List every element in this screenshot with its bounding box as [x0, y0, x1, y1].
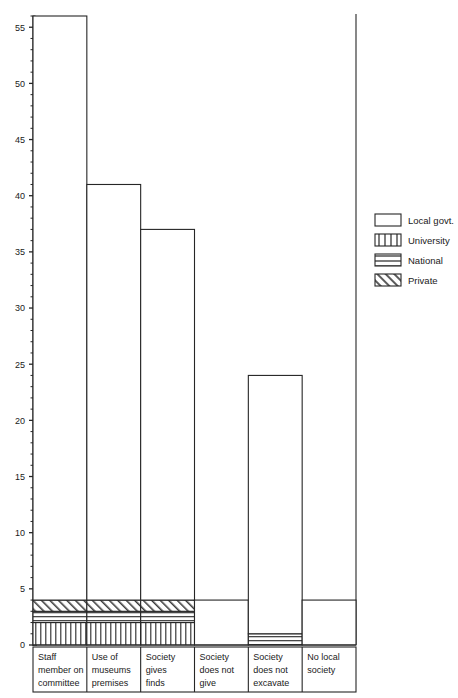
category-label: Staff: [38, 652, 57, 662]
bar-segment-university: [87, 623, 141, 645]
bar-segment-private: [33, 600, 87, 611]
category-label: Society: [253, 652, 283, 662]
y-tick-label: 55: [15, 23, 25, 33]
bar-segment-national: [248, 634, 302, 645]
category-label: does not: [200, 665, 235, 675]
y-tick-label: 35: [15, 247, 25, 257]
category-label: does not: [253, 665, 288, 675]
legend-item: National: [375, 254, 443, 266]
y-tick-label: 20: [15, 416, 25, 426]
category-label: premises: [92, 678, 129, 688]
bar-stack: [195, 600, 249, 645]
legend-swatch-local-govt: [375, 214, 401, 226]
chart-legend: Local govt.UniversityNationalPrivate: [375, 214, 454, 286]
category-label: committee: [38, 678, 80, 688]
bar-stack: [302, 600, 356, 645]
y-tick-label: 50: [15, 79, 25, 89]
bar-segment-private: [141, 600, 195, 611]
bar-stack: [33, 16, 87, 645]
bar-segment-national: [141, 611, 195, 622]
bar-segment-local-govt-: [302, 600, 356, 645]
legend-item: University: [375, 234, 450, 246]
category-label: No local: [307, 652, 340, 662]
y-tick-label: 10: [15, 528, 25, 538]
legend-swatch-national: [375, 254, 401, 266]
legend-label: Local govt.: [408, 215, 454, 226]
chart-container: 0510152025303540455055 Staffmember oncom…: [0, 0, 458, 698]
legend-swatch-private: [375, 274, 401, 286]
stacked-bar-chart: 0510152025303540455055 Staffmember oncom…: [0, 0, 458, 698]
bar-stack: [141, 229, 195, 645]
y-tick-label: 0: [20, 640, 25, 650]
category-label: give: [200, 678, 217, 688]
bar-segment-university: [33, 623, 87, 645]
category-label: gives: [146, 665, 168, 675]
bar-segment-local-govt-: [195, 600, 249, 645]
category-label: museums: [92, 665, 132, 675]
y-tick-label: 15: [15, 472, 25, 482]
bar-segment-local-govt-: [141, 229, 195, 600]
category-label: Use of: [92, 652, 119, 662]
category-label-boxes: Staffmember oncommitteeUse ofmuseumsprem…: [33, 647, 356, 692]
bar-stack: [248, 375, 302, 645]
legend-label: Private: [408, 275, 438, 286]
y-tick-label: 30: [15, 303, 25, 313]
legend-swatch-university: [375, 234, 401, 246]
bar-segment-local-govt-: [33, 16, 87, 600]
bars-group: [33, 16, 356, 645]
legend-item: Private: [375, 274, 438, 286]
y-tick-label: 45: [15, 135, 25, 145]
bar-segment-university: [141, 623, 195, 645]
category-label: society: [307, 665, 336, 675]
bar-segment-local-govt-: [87, 184, 141, 600]
legend-label: National: [408, 255, 443, 266]
category-label: Society: [146, 652, 176, 662]
y-tick-label: 40: [15, 191, 25, 201]
bar-segment-local-govt-: [248, 375, 302, 633]
bar-segment-private: [87, 600, 141, 611]
category-label: finds: [146, 678, 166, 688]
bar-segment-national: [33, 611, 87, 622]
bar-segment-national: [87, 611, 141, 622]
y-tick-label: 25: [15, 360, 25, 370]
legend-label: University: [408, 235, 450, 246]
category-label: excavate: [253, 678, 289, 688]
category-label: member on: [38, 665, 84, 675]
y-tick-label: 5: [20, 584, 25, 594]
category-label: Society: [200, 652, 230, 662]
legend-item: Local govt.: [375, 214, 454, 226]
bar-stack: [87, 184, 141, 645]
